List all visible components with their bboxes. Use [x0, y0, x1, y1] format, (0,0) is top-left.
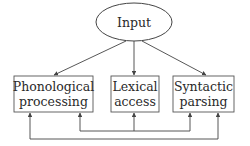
box-syntactic-parsing: Syntactic parsing: [173, 76, 234, 112]
arrow-input-to-syntactic: [142, 41, 206, 75]
inner-feedback-connector: [80, 113, 190, 131]
box-phonological-processing: Phonological processing: [13, 76, 95, 112]
arrow-input-to-phonological: [54, 41, 126, 75]
input-node: Input: [96, 3, 172, 41]
box-label-line2: processing: [19, 94, 88, 109]
input-label: Input: [117, 15, 151, 30]
box-label-line2: parsing: [180, 94, 228, 109]
flow-diagram: Input Phonological processing Lexical ac…: [0, 0, 250, 146]
box-label-line1: Syntactic: [174, 79, 233, 94]
box-label-line2: access: [114, 94, 156, 109]
box-lexical-access: Lexical access: [111, 76, 159, 112]
box-label-line1: Lexical: [112, 79, 157, 94]
box-label-line1: Phonological: [13, 79, 95, 94]
